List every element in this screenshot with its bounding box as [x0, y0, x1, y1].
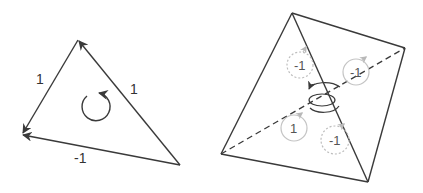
edge-label-right: 1 — [130, 81, 138, 97]
face-label-upper-right: -1 — [350, 65, 362, 80]
edge-top-right — [292, 13, 405, 48]
diagram-canvas: 1 1 -1 -1 -1 1 -1 — [0, 0, 423, 193]
edge-label-left: 1 — [36, 71, 44, 87]
edge-right-to-left — [23, 135, 180, 165]
edge-right-to-top — [79, 41, 180, 165]
face-orientation-lower-center: -1 — [321, 124, 349, 154]
face-label-upper-left: -1 — [294, 58, 306, 73]
counterclockwise-orientation-icon — [82, 93, 110, 121]
edge-bottom-left — [221, 154, 368, 182]
face-label-lower-left: 1 — [290, 121, 297, 136]
edge-top-bottom — [292, 13, 368, 182]
edge-top-to-left — [23, 40, 78, 133]
edge-label-bottom: -1 — [74, 150, 87, 166]
oriented-triangle: 1 1 -1 — [23, 40, 180, 166]
face-label-lower-center: -1 — [329, 133, 341, 148]
edge-right-bottom — [368, 48, 405, 182]
oriented-tetrahedron: -1 -1 1 -1 — [221, 13, 405, 182]
face-orientation-upper-right: -1 — [343, 57, 369, 85]
